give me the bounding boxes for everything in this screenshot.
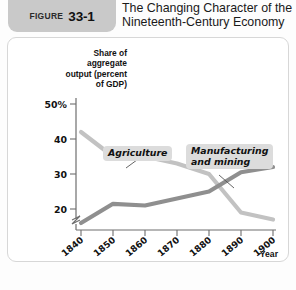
callout-manufacturing: Manufacturing and mining [186, 144, 273, 169]
y-tick-label-1: 40 [54, 134, 68, 145]
figure-title-line-1: The Changing Character of the [122, 2, 294, 16]
figure-number-tab: FIGURE 33-1 [8, 0, 116, 32]
y-tick-labels: 50% 40 30 20 [45, 99, 68, 215]
x-tick-label-2: 1860 [124, 235, 150, 259]
y-tick-marks [70, 104, 76, 209]
y-tick-label-2: 30 [54, 169, 68, 180]
x-axis-title: Year [260, 249, 278, 259]
callout-agriculture-label: Agriculture [108, 147, 167, 158]
y-tick-label-3: 20 [54, 204, 68, 215]
figure-header: FIGURE 33-1 The Changing Character of th… [0, 0, 296, 40]
x-tick-label-1: 1850 [92, 235, 118, 259]
figure-title-line-2: Nineteenth-Century Economy [122, 16, 294, 30]
callout-manufacturing-line-1: Manufacturing [191, 146, 268, 157]
x-tick-labels: 1840 1850 1860 1870 1880 1890 1900 [60, 235, 278, 259]
figure-label-number: 33-1 [68, 9, 94, 24]
figure-root: FIGURE 33-1 The Changing Character of th… [0, 0, 296, 290]
source-note: Source: Robert E. Gallman, "Economic Gro… [8, 270, 296, 290]
figure-label-word: FIGURE [29, 11, 63, 21]
x-tick-label-4: 1880 [188, 235, 214, 259]
x-tick-label-0: 1840 [60, 235, 86, 259]
chart-panel: Share of aggregate output (percent of GD… [7, 37, 289, 262]
x-tick-label-3: 1870 [156, 235, 182, 259]
x-tick-label-5: 1890 [220, 235, 246, 259]
figure-title: The Changing Character of the Nineteenth… [122, 2, 294, 29]
callout-manufacturing-line-2: and mining [191, 157, 268, 168]
callout-agriculture: Agriculture [103, 146, 172, 161]
y-tick-label-0: 50% [45, 99, 68, 110]
